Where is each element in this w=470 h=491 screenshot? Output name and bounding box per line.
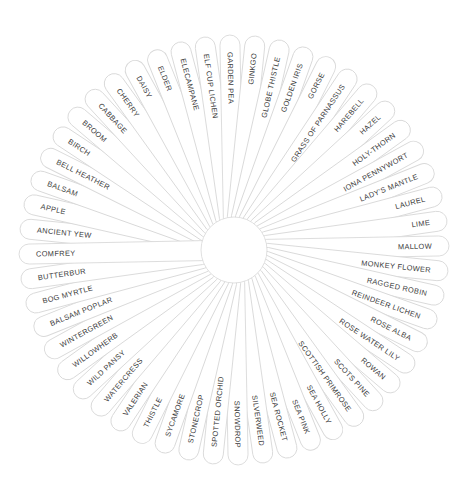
petal-label: MALLOW [398,242,432,252]
petal-label: COMFREY [36,249,76,259]
petal-label: SNOWDROP [232,401,242,448]
wheel-center-hub [201,217,267,283]
word-wheel-figure: ANCIENT YEWAPPLEBALSAMBELL HEATHERBIRCHB… [0,0,470,491]
wheel-petal[interactable]: COMFREY [19,240,211,264]
petal-label: GARDEN PEA [226,52,236,104]
word-wheel-canvas: ANCIENT YEWAPPLEBALSAMBELL HEATHERBIRCHB… [0,0,470,491]
